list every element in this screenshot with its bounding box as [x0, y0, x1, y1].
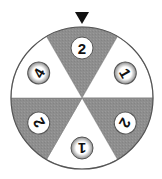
spinner-wheel: 212124: [0, 0, 162, 179]
sector-number: 2: [78, 40, 86, 57]
sector-number-badge: 1: [71, 137, 93, 159]
sector-number-badge: 2: [71, 37, 93, 59]
pointer-arrow-icon: [75, 12, 89, 24]
sector-number: 1: [78, 140, 86, 157]
